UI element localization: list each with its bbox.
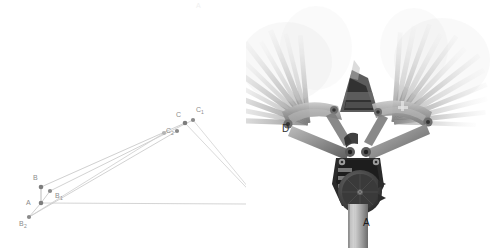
photo-label-D: D [282,123,289,134]
label-B2-sub: 2 [24,223,27,229]
joint-B [39,185,44,190]
label-B: B [33,174,38,181]
link-C-D [185,123,246,204]
link-B2-C3 [29,131,177,217]
link-A-B2 [29,203,41,217]
photo-svg: D A [246,0,492,248]
photo-label-A: A [363,217,370,228]
joint-C3 [175,129,179,133]
joint-B1 [48,189,52,193]
label-C1-sub: 1 [201,109,204,115]
label-C2-sub: 2 [171,130,174,136]
label-A: A [26,199,31,206]
joint-C1 [191,118,195,122]
diagram-svg: A [0,0,246,248]
label-C: C [176,111,181,118]
coupler-ray-C2 [29,133,164,217]
link-A-D [41,203,246,204]
faint-top-mark: A [196,2,201,9]
diagram-links [29,120,246,217]
link-C1-D [193,120,246,204]
diagram-labels: A B B 1 B 2 C C 1 C 2 D [19,106,246,229]
joint-B2 [27,215,31,219]
diagram-panel: A [0,0,246,248]
joint-C [183,121,188,126]
figure-root: A [0,0,492,248]
label-B1-sub: 1 [60,195,63,201]
joint-A [39,201,44,206]
photo-panel: D A [246,0,492,248]
